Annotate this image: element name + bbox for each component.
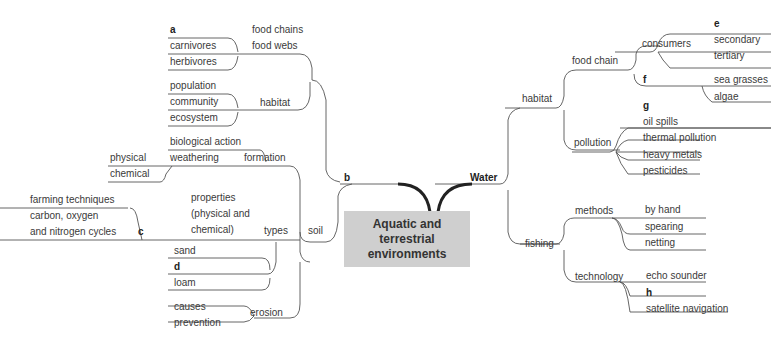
node-algae: algae bbox=[714, 91, 738, 103]
node-f: f bbox=[643, 74, 646, 86]
node-erosion: erosion bbox=[250, 307, 283, 319]
node-by-hand: by hand bbox=[645, 204, 681, 216]
node-formation: formation bbox=[244, 152, 286, 164]
node-thermal-pollution: thermal pollution bbox=[643, 132, 716, 144]
node-weathering: weathering bbox=[170, 152, 219, 164]
node-tertiary: tertiary bbox=[714, 50, 745, 62]
node-sand: sand bbox=[174, 245, 196, 257]
node-herbivores: herbivores bbox=[170, 56, 217, 68]
node-community: community bbox=[170, 96, 218, 108]
node-properties-1: properties bbox=[191, 192, 235, 204]
node-cycles-1: carbon, oxygen bbox=[30, 210, 98, 222]
central-topic-line2: environments bbox=[344, 247, 470, 262]
node-oil-spills: oil spills bbox=[643, 116, 678, 128]
node-c: c bbox=[138, 226, 144, 238]
node-secondary: secondary bbox=[714, 34, 760, 46]
node-properties-2: (physical and bbox=[191, 208, 250, 220]
node-cycles-2: and nitrogen cycles bbox=[30, 226, 116, 238]
node-fishing: fishing bbox=[525, 238, 554, 250]
node-food-webs: food webs bbox=[252, 40, 298, 52]
node-ecosystem: ecosystem bbox=[170, 112, 218, 124]
node-water: Water bbox=[470, 172, 497, 184]
node-satellite-navigation: satellite navigation bbox=[646, 303, 728, 315]
node-b: b bbox=[344, 172, 350, 184]
central-topic: Aquatic and terrestrial environments bbox=[344, 211, 470, 267]
node-properties-3: chemical) bbox=[191, 224, 234, 236]
node-pesticides: pesticides bbox=[643, 165, 687, 177]
node-pollution: pollution bbox=[574, 137, 611, 149]
node-a: a bbox=[170, 24, 176, 36]
node-technology: technology bbox=[575, 271, 623, 283]
node-farming-techniques: farming techniques bbox=[30, 194, 115, 206]
node-netting: netting bbox=[645, 237, 675, 249]
node-physical: physical bbox=[110, 152, 146, 164]
node-food-chain: food chain bbox=[572, 55, 618, 67]
node-sea-grasses: sea grasses bbox=[714, 74, 768, 86]
node-food-chains: food chains bbox=[252, 24, 303, 36]
node-g: g bbox=[643, 100, 649, 112]
node-carnivores: carnivores bbox=[170, 40, 216, 52]
node-d: d bbox=[174, 261, 180, 273]
mind-map: Aquatic and terrestrial environments b a… bbox=[0, 0, 771, 340]
node-prevention: prevention bbox=[174, 317, 221, 329]
node-biological-action: biological action bbox=[170, 136, 241, 148]
node-population: population bbox=[170, 80, 216, 92]
node-e: e bbox=[714, 18, 720, 30]
node-chemical: chemical bbox=[110, 168, 149, 180]
node-consumers: consumers bbox=[642, 38, 691, 50]
node-heavy-metals: heavy metals bbox=[643, 149, 702, 161]
node-h: h bbox=[646, 287, 652, 299]
node-causes: causes bbox=[174, 301, 206, 313]
node-loam: loam bbox=[174, 277, 196, 289]
node-spearing: spearing bbox=[645, 221, 683, 233]
node-echo-sounder: echo sounder bbox=[646, 270, 707, 282]
node-methods: methods bbox=[575, 205, 613, 217]
node-soil: soil bbox=[308, 225, 323, 237]
central-topic-line1: Aquatic and terrestrial bbox=[344, 217, 470, 247]
node-habitat-right: habitat bbox=[522, 93, 552, 105]
node-habitat-left: habitat bbox=[260, 97, 290, 109]
node-types: types bbox=[264, 225, 288, 237]
